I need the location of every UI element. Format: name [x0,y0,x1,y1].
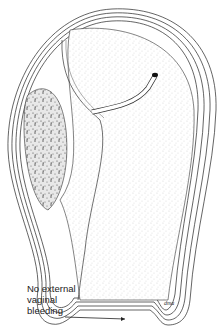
annotation-arrow [65,317,125,319]
amniotic-cavity [60,28,194,300]
annotation-line-2: vaginal [27,294,76,305]
retroplacental-clot [24,89,67,210]
annotation-label: No external vaginal bleeding [27,283,76,316]
annotation-line-3: bleeding [27,305,76,316]
annotation-line-1: No external [27,283,76,294]
artist-signature: dma [164,300,174,306]
